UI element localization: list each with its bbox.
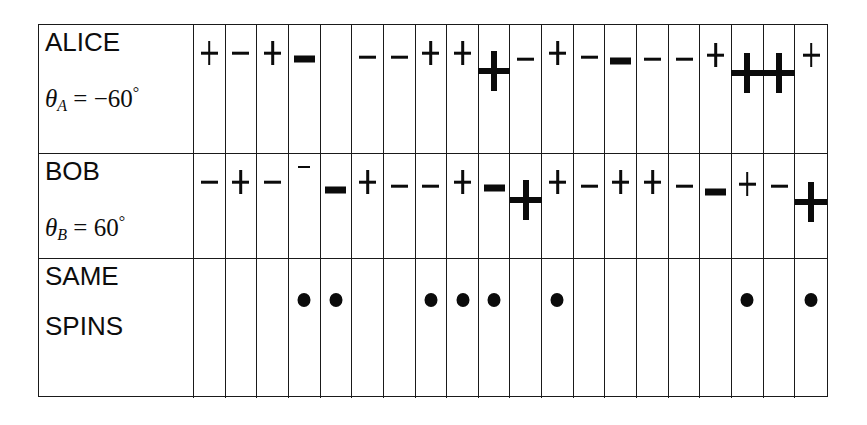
minus-symbol — [357, 43, 378, 71]
symbol-vertical-bar — [461, 41, 464, 65]
row-label-bob: BOBθB = 60° — [39, 154, 194, 259]
cell-alice-5 — [321, 25, 353, 154]
same-spin-dot — [805, 293, 818, 307]
theta-glyph: θ — [45, 214, 57, 241]
symbol-vertical-bar — [271, 41, 274, 65]
cell-alice-12 — [542, 25, 574, 154]
plus-symbol — [476, 49, 512, 93]
minus-symbol — [292, 53, 317, 64]
plus-symbol — [547, 39, 568, 67]
cell-same-spins-11 — [510, 259, 542, 398]
cell-alice-8 — [416, 25, 448, 154]
minus-symbol — [199, 168, 220, 196]
cell-bob-16 — [669, 154, 701, 259]
plus-symbol — [199, 39, 220, 67]
plus-symbol — [452, 39, 473, 67]
symbol-vertical-bar — [430, 41, 433, 65]
cell-bob-18 — [732, 154, 764, 259]
cell-same-spins-2 — [226, 259, 258, 398]
symbol-horizontal-bar — [676, 58, 693, 61]
cell-same-spins-9 — [447, 259, 479, 398]
cell-alice-4 — [289, 25, 321, 154]
symbol-horizontal-bar — [581, 56, 598, 59]
theta-subscript: B — [57, 226, 67, 243]
symbol-horizontal-bar — [325, 186, 346, 193]
same-spin-dot — [298, 293, 311, 307]
minus-symbol — [703, 186, 728, 197]
minus-symbol — [608, 55, 633, 66]
minus-symbol — [769, 172, 790, 200]
symbol-horizontal-bar — [232, 52, 249, 55]
cell-alice-7 — [384, 25, 416, 154]
cell-alice-19 — [764, 25, 796, 154]
cell-same-spins-18 — [732, 259, 764, 398]
cell-bob-17 — [700, 154, 732, 259]
symbol-horizontal-bar — [581, 185, 598, 188]
plus-symbol — [420, 39, 441, 67]
cell-alice-20 — [795, 25, 827, 154]
cell-same-spins-8 — [416, 259, 448, 398]
cell-alice-18 — [732, 25, 764, 154]
cell-same-spins-10 — [479, 259, 511, 398]
plus-symbol — [452, 168, 473, 196]
same-spin-dot — [551, 293, 564, 307]
symbol-horizontal-bar — [676, 185, 693, 188]
symbol-horizontal-bar — [422, 185, 439, 188]
symbol-horizontal-bar — [201, 181, 218, 184]
symbol-vertical-bar — [714, 43, 717, 67]
symbol-vertical-bar — [208, 41, 211, 65]
cell-same-spins-6 — [352, 259, 384, 398]
cell-bob-9 — [447, 154, 479, 259]
minus-symbol — [389, 43, 410, 71]
cell-bob-20 — [795, 154, 827, 259]
cell-alice-14 — [605, 25, 637, 154]
cell-same-spins-1 — [194, 259, 226, 398]
symbol-vertical-bar — [461, 170, 464, 194]
row-label-title: BOB — [45, 156, 193, 186]
cell-alice-11 — [510, 25, 542, 154]
row-label-title: SAME — [45, 261, 193, 291]
same-spin-dot — [741, 293, 754, 307]
cell-alice-1 — [194, 25, 226, 154]
same-spin-dot — [329, 293, 342, 307]
symbol-horizontal-bar — [391, 56, 408, 59]
minus-symbol — [296, 164, 312, 170]
cell-alice-9 — [447, 25, 479, 154]
symbol-vertical-bar — [744, 53, 750, 93]
symbol-horizontal-bar — [359, 56, 376, 59]
cell-same-spins-5 — [321, 259, 353, 398]
cell-same-spins-4 — [289, 259, 321, 398]
cell-same-spins-19 — [764, 259, 796, 398]
cell-alice-16 — [669, 25, 701, 154]
angle-value: 60 — [94, 214, 119, 241]
equals-sign: = — [67, 214, 94, 241]
cell-bob-8 — [416, 154, 448, 259]
plus-symbol — [642, 168, 663, 196]
symbol-horizontal-bar — [705, 188, 726, 195]
cell-bob-13 — [574, 154, 606, 259]
minus-symbol — [323, 184, 348, 195]
cell-same-spins-14 — [605, 259, 637, 398]
symbol-horizontal-bar — [644, 58, 661, 61]
plus-symbol — [705, 41, 726, 69]
same-spin-dot — [488, 293, 501, 307]
minus-symbol — [262, 168, 283, 196]
minus-symbol — [389, 172, 410, 200]
cell-alice-15 — [637, 25, 669, 154]
theta-glyph: θ — [45, 85, 57, 112]
symbol-vertical-bar — [491, 51, 497, 91]
row-label-title-line2: SPINS — [45, 311, 193, 341]
row-angle-expression: θA = −60° — [45, 79, 193, 120]
cell-bob-10 — [479, 154, 511, 259]
cell-bob-1 — [194, 154, 226, 259]
equals-sign: = — [67, 85, 94, 112]
plus-symbol — [610, 168, 631, 196]
minus-symbol — [420, 172, 441, 200]
symbol-vertical-bar — [619, 170, 622, 194]
cell-same-spins-13 — [574, 259, 606, 398]
cell-alice-17 — [700, 25, 732, 154]
symbol-horizontal-bar — [517, 58, 534, 61]
cell-same-spins-15 — [637, 259, 669, 398]
symbol-horizontal-bar — [298, 166, 310, 168]
symbol-horizontal-bar — [264, 181, 281, 184]
